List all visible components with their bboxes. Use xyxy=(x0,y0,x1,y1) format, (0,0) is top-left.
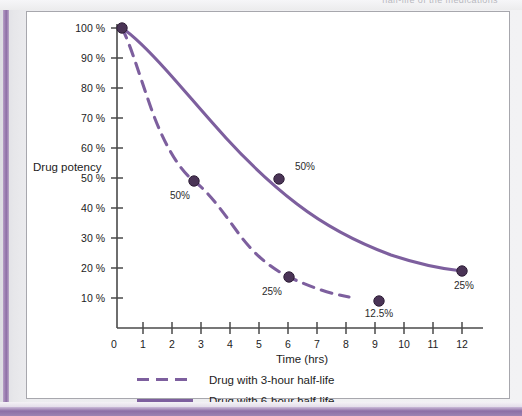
drug-potency-decay-chart: 100 % 90 % 80 % 70 % 60 % 50 % 40 % 30 %… xyxy=(27,12,509,398)
data-label-6h-25pct: 25% xyxy=(454,280,474,291)
clipped-caption-text: half-life of the medications xyxy=(382,0,498,5)
y-tick-label: 100 % xyxy=(75,22,105,34)
x-tick-label: 8 xyxy=(343,338,349,350)
y-tick-label: 10 % xyxy=(81,292,105,304)
page-bottom-accent-bar xyxy=(0,407,522,416)
clipped-caption-strip: half-life of the medications xyxy=(0,0,522,10)
y-tick-label: 40 % xyxy=(81,202,105,214)
data-point-6h-25pct xyxy=(457,266,467,276)
y-axis-title: Drug potency xyxy=(33,160,103,174)
y-tick-label: 70 % xyxy=(81,112,105,124)
x-tick-label: 2 xyxy=(169,338,175,350)
x-tick-label: 12 xyxy=(456,338,468,350)
x-tick-label: 6 xyxy=(285,338,291,350)
y-tick-label: 80 % xyxy=(81,82,105,94)
data-label-3h-25pct: 25% xyxy=(262,286,282,297)
y-tick-label: 90 % xyxy=(81,52,105,64)
x-tick-label: 0 xyxy=(111,338,117,350)
data-point-3h-25pct xyxy=(284,272,294,282)
x-axis-title: Time (hrs) xyxy=(276,353,328,365)
data-point-origin-100pct xyxy=(117,23,127,33)
series-line-6-hour-half-life xyxy=(122,28,462,271)
x-tick-label: 5 xyxy=(256,338,262,350)
x-axis-tick-labels: 0 1 2 3 4 5 6 7 8 9 10 11 12 xyxy=(111,338,468,350)
x-tick-label: 3 xyxy=(198,338,204,350)
x-tick-label: 7 xyxy=(314,338,320,350)
x-tick-label: 4 xyxy=(227,338,233,350)
legend-swatch-dashed-icon xyxy=(137,375,193,385)
data-point-3h-50pct xyxy=(189,176,199,186)
figure-frame: 100 % 90 % 80 % 70 % 60 % 50 % 40 % 30 %… xyxy=(26,11,510,399)
x-tick-label: 9 xyxy=(372,338,378,350)
y-tick-label: 20 % xyxy=(81,262,105,274)
axes xyxy=(117,24,483,328)
x-tick-label: 1 xyxy=(140,338,146,350)
data-label-6h-50pct: 50% xyxy=(295,161,315,172)
data-label-3h-12-5pct: 12.5% xyxy=(365,308,393,319)
page-spine-accent-strip xyxy=(3,0,9,416)
legend-label-3-hour: Drug with 3-hour half-life xyxy=(209,374,334,386)
data-point-labels: 50% 25% 12.5% 50% 25% xyxy=(170,161,474,319)
data-point-6h-50pct xyxy=(274,174,284,184)
data-point-3h-12-5pct xyxy=(374,296,384,306)
legend-item-3-hour: Drug with 3-hour half-life xyxy=(137,369,467,390)
data-label-3h-50pct: 50% xyxy=(170,190,190,201)
y-tick-label: 60 % xyxy=(81,142,105,154)
y-tick-label: 30 % xyxy=(81,232,105,244)
x-tick-label: 10 xyxy=(398,338,410,350)
x-tick-label: 11 xyxy=(428,338,439,350)
